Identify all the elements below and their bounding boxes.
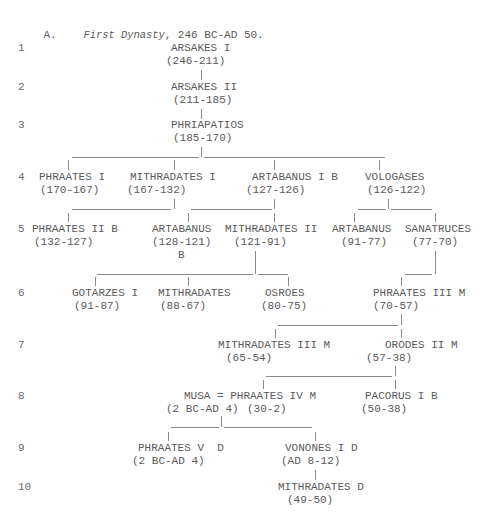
descent-line	[168, 432, 169, 441]
descent-line	[354, 213, 355, 222]
generation-number: 9	[18, 442, 25, 455]
sibling-bar	[72, 157, 199, 158]
reign-dates: (185-170)	[173, 132, 232, 145]
descent-line	[315, 432, 316, 441]
ruler-name: PHRAATES V D	[138, 442, 224, 455]
descent-line	[68, 213, 69, 222]
sibling-bar	[191, 209, 272, 210]
descent-line	[201, 147, 202, 157]
generation-number: 7	[18, 339, 25, 352]
descent-line	[174, 160, 175, 170]
descent-line	[388, 199, 389, 209]
ruler-name: MITHRADATES	[158, 287, 231, 300]
ruler-name: PACORUS I B	[365, 390, 438, 403]
reign-dates: (2 BC-AD 4)	[166, 403, 239, 416]
descent-line	[401, 314, 402, 325]
descent-line	[201, 70, 202, 80]
descent-line	[274, 199, 275, 209]
descent-line	[255, 251, 256, 274]
descent-line	[315, 470, 316, 480]
descent-line	[395, 380, 396, 389]
reign-dates: (49-50)	[287, 494, 333, 507]
sibling-bar	[171, 427, 219, 428]
ruler-name: PHRIAPATIOS	[171, 119, 244, 132]
sibling-bar	[405, 274, 432, 275]
ruler-name: ARSAKES II	[171, 81, 237, 94]
reign-dates: (30-2)	[247, 403, 287, 416]
reign-dates: (88-67)	[160, 300, 206, 313]
ruler-name: MITHRADATES D	[278, 481, 364, 494]
reign-dates: (80-75)	[261, 300, 307, 313]
ruler-name: MITHRADATES II	[225, 223, 317, 236]
genealogy-document: A.First Dynasty, 246 BC-AD 50. 123456789…	[0, 0, 484, 517]
reign-dates: (AD 8-12)	[281, 455, 340, 468]
descent-line	[379, 160, 380, 170]
descent-line	[188, 277, 189, 286]
reign-dates: (57-38)	[366, 352, 412, 365]
reign-dates: (2 BC-AD 4)	[132, 455, 205, 468]
sibling-bar	[72, 209, 171, 210]
sibling-bar	[278, 325, 398, 326]
descent-line	[263, 380, 264, 389]
sibling-bar	[358, 209, 386, 210]
ruler-name: SANATRUCES	[405, 223, 471, 236]
descent-line	[435, 251, 436, 274]
descent-line	[188, 213, 189, 222]
reign-dates: (91-87)	[74, 300, 120, 313]
descent-line	[221, 416, 222, 427]
descent-line	[435, 213, 436, 222]
ruler-name: ARTABANUS I B	[252, 171, 338, 184]
reign-dates: (126-122)	[367, 184, 426, 197]
descent-line	[201, 109, 202, 119]
reign-dates: (132-127)	[34, 236, 93, 249]
reign-dates: (170-167)	[40, 184, 99, 197]
descent-line	[395, 366, 396, 376]
ruler-name: ARTABANUS	[332, 223, 391, 236]
ruler-name: B	[178, 249, 185, 262]
ruler-name: MUSA = PHRAATES IV M	[184, 390, 316, 403]
generation-number: 8	[18, 390, 25, 403]
reign-dates: (91-77)	[341, 236, 387, 249]
generation-number: 3	[18, 119, 25, 132]
sibling-bar	[258, 274, 288, 275]
generation-number: 6	[18, 287, 25, 300]
generation-number: 10	[18, 481, 31, 494]
descent-line	[274, 160, 275, 170]
ruler-name: MITHRADATES I	[130, 171, 216, 184]
reign-dates: (127-126)	[246, 184, 305, 197]
dynasty-dates: , 246 BC-AD 50.	[165, 29, 264, 41]
ruler-name: PHRAATES III M	[373, 287, 465, 300]
descent-line	[274, 213, 275, 222]
ruler-name: OSROES	[265, 287, 305, 300]
reign-dates: (50-38)	[361, 403, 407, 416]
dynasty-name: First Dynasty	[84, 29, 165, 41]
section-letter: A.	[43, 29, 56, 41]
descent-line	[174, 199, 175, 209]
ruler-name: VONONES I D	[285, 442, 358, 455]
sibling-bar	[224, 427, 312, 428]
reign-dates: (70-57)	[373, 300, 419, 313]
descent-line	[401, 277, 402, 286]
reign-dates: (246-211)	[166, 55, 225, 68]
descent-line	[288, 277, 289, 286]
ruler-name: PHRAATES II B	[32, 223, 118, 236]
sibling-bar	[204, 157, 385, 158]
sibling-bar	[266, 376, 392, 377]
sibling-bar	[97, 274, 253, 275]
ruler-name: VOLOGASES	[365, 171, 424, 184]
ruler-name: ORODES II M	[385, 339, 458, 352]
descent-line	[275, 329, 276, 338]
descent-line	[401, 329, 402, 338]
ruler-name: PHRAATES I	[39, 171, 105, 184]
reign-dates: (167-132)	[127, 184, 186, 197]
ruler-name: MITHRADATES III M	[218, 339, 330, 352]
ruler-name: GOTARZES I	[72, 287, 138, 300]
descent-line	[95, 277, 96, 286]
reign-dates: (77-70)	[412, 236, 458, 249]
reign-dates: (65-54)	[226, 352, 272, 365]
generation-number: 5	[18, 223, 25, 236]
ruler-name: ARSAKES I	[171, 42, 230, 55]
generation-number: 1	[18, 42, 25, 55]
generation-number: 4	[18, 171, 25, 184]
descent-line	[68, 160, 69, 170]
